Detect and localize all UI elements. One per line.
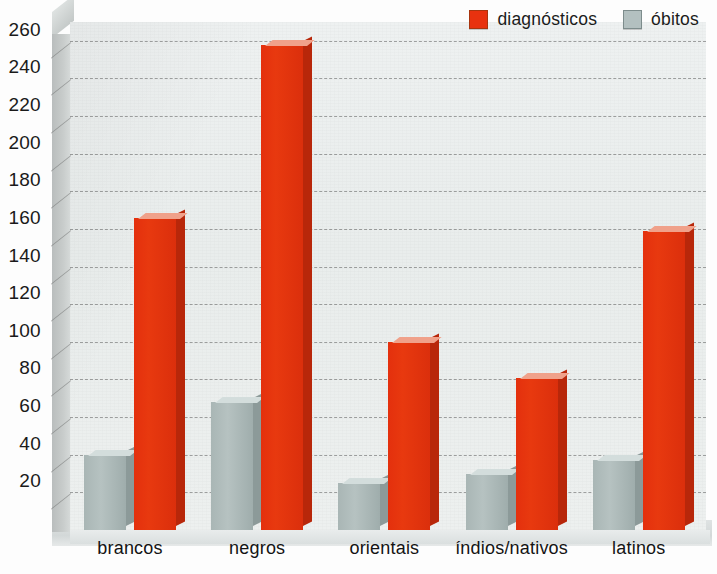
legend-item-diagnosticos: diagnósticos: [469, 9, 597, 30]
y-tick-label-240: 240: [0, 56, 41, 78]
y-tick-label-180: 180: [0, 169, 41, 191]
x-axis-label-1: brancos: [97, 538, 162, 559]
y-tick-label-100: 100: [0, 320, 41, 342]
y-tick-label-60: 60: [0, 395, 41, 417]
y-tick-label-40: 40: [0, 433, 41, 455]
x-axis-labels: brancosnegrosorientaisíndios/nativoslati…: [70, 538, 710, 572]
y-tick-label-80: 80: [0, 357, 41, 379]
y-tick-label-200: 200: [0, 132, 41, 154]
x-axis-label-5: latinos: [612, 538, 665, 559]
legend-label-obitos: óbitos: [651, 9, 699, 30]
chart-legend: diagnósticos óbitos: [469, 9, 699, 30]
legend-item-obitos: óbitos: [623, 9, 699, 30]
y-tick-label-260: 260: [0, 19, 41, 41]
legend-swatch-red-icon: [469, 10, 488, 29]
y-tick-label-160: 160: [0, 207, 41, 229]
y-tick-label-220: 220: [0, 94, 41, 116]
legend-swatch-grey-icon: [623, 10, 642, 29]
bar-chart: diagnósticos óbitos 20406080100120140160…: [0, 0, 717, 574]
y-axis-ticks: 20406080100120140160180200220240260: [70, 22, 706, 530]
y-tick-label-140: 140: [0, 245, 41, 267]
x-axis-label-4: índios/nativos: [455, 538, 568, 559]
x-axis-label-3: orientais: [349, 538, 419, 559]
y-tick-label-120: 120: [0, 282, 41, 304]
y-tick-label-20: 20: [0, 470, 41, 492]
legend-label-diagnosticos: diagnósticos: [497, 9, 597, 30]
x-axis-label-2: negros: [229, 538, 285, 559]
